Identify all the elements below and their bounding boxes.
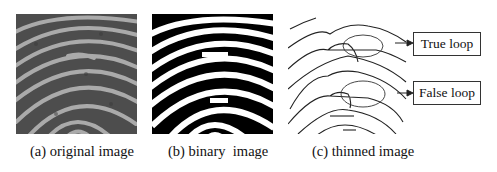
binary-image-panel — [152, 14, 273, 134]
caption-thinned-image: (c) thinned image — [312, 143, 414, 160]
caption-original-image: (a) original image — [30, 143, 134, 160]
thinned-fingerprint-image — [288, 14, 409, 134]
binary-fingerprint-image — [152, 14, 273, 134]
original-fingerprint-image — [16, 14, 137, 134]
original-image-panel — [16, 14, 137, 134]
false-loop-label: False loop — [413, 81, 481, 105]
true-loop-text: True loop — [421, 36, 473, 52]
true-loop-label: True loop — [413, 32, 481, 56]
caption-binary-image: (b) binary image — [168, 143, 268, 160]
thinned-image-panel — [288, 14, 409, 134]
false-loop-text: False loop — [419, 85, 475, 101]
